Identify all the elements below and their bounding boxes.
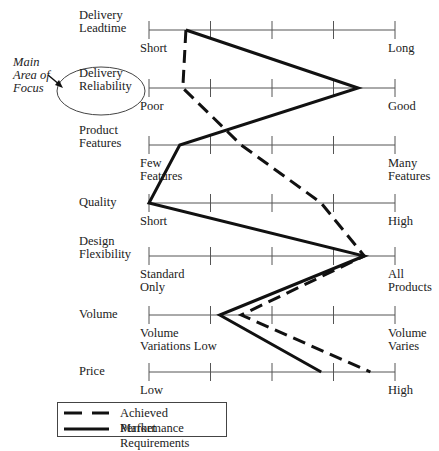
legend-swatches bbox=[62, 403, 122, 436]
axis-low-label: Only bbox=[140, 281, 165, 294]
axis-low-label: Poor bbox=[140, 100, 164, 113]
axis-low-label: Low bbox=[140, 384, 163, 397]
axis-high-label: Long bbox=[388, 42, 414, 55]
axis-name-label: Quality bbox=[79, 196, 117, 209]
axis-high-label: High bbox=[388, 384, 413, 397]
axis-low-label: Variations Low bbox=[140, 340, 217, 353]
axis-high-label: Features bbox=[388, 170, 430, 183]
legend: Achieved Performance Market Requirements bbox=[57, 402, 227, 437]
axis-name-label: Flexibility bbox=[79, 248, 131, 261]
axis-high-label: High bbox=[388, 215, 413, 228]
axis-low-label: Short bbox=[140, 215, 167, 228]
axis-high-label: Good bbox=[388, 100, 416, 113]
main-focus-annotation: Focus bbox=[13, 82, 44, 95]
axis-name-label: Reliability bbox=[79, 80, 132, 93]
axis-low-label: Short bbox=[140, 42, 167, 55]
legend-label-market: Market Requirements bbox=[120, 421, 226, 451]
axis-name-label: Leadtime bbox=[79, 22, 126, 35]
axis-high-label: Varies bbox=[388, 340, 419, 353]
axis-high-label: Products bbox=[388, 281, 432, 294]
axis-name-label: Volume bbox=[79, 308, 118, 321]
axis-name-label: Price bbox=[79, 365, 105, 378]
market-requirements-line bbox=[149, 30, 364, 372]
axis-name-label: Features bbox=[79, 137, 121, 150]
axis-low-label: Features bbox=[140, 170, 182, 183]
